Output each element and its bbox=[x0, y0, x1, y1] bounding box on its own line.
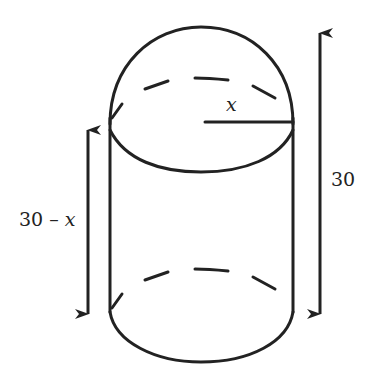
shape-drawing bbox=[0, 0, 377, 382]
top-ellipse-back-dash bbox=[145, 81, 168, 89]
hemisphere-outline bbox=[110, 27, 293, 124]
radius-label: x bbox=[226, 95, 237, 114]
cylinder-height-number: 30 – bbox=[19, 208, 65, 230]
bottom-ellipse-back-dash bbox=[145, 272, 168, 280]
bottom-ellipse-front bbox=[110, 312, 293, 362]
cylinder-height-label: 30 – x bbox=[19, 210, 75, 229]
top-ellipse-front bbox=[110, 130, 293, 172]
total-height-label: 30 bbox=[331, 170, 355, 189]
diagram-canvas: x 30 – x 30 bbox=[0, 0, 377, 382]
cylinder-height-variable: x bbox=[65, 208, 76, 230]
